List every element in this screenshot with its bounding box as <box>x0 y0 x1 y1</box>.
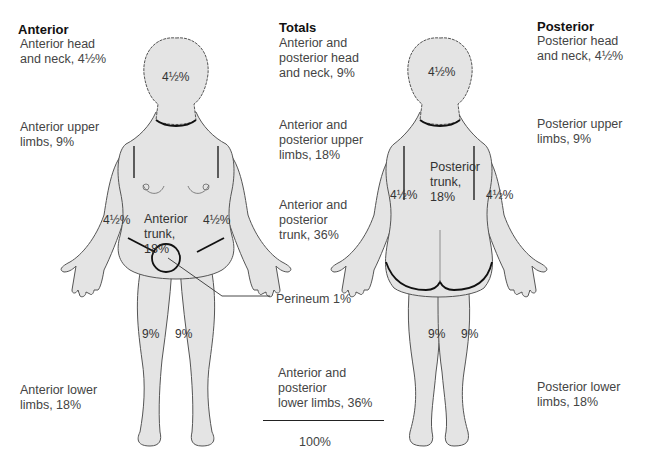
label-line: posterior upper <box>279 133 363 148</box>
label-line: and neck, 4½% <box>20 52 106 67</box>
posterior-lower-limbs-label: Posterior lower limbs, 18% <box>537 380 620 410</box>
anterior-lower-limbs-label: Anterior lower limbs, 18% <box>20 383 97 413</box>
label-line: Anterior and <box>278 366 372 381</box>
label-line: Anterior <box>144 212 188 227</box>
label-line: trunk, <box>144 227 188 242</box>
perineum-label: Perineum 1% <box>276 292 351 307</box>
posterior-right-arm-pct: 4½% <box>486 188 513 202</box>
anterior-right-leg-pct: 9% <box>175 327 192 341</box>
posterior-left-arm-pct: 4½% <box>390 188 417 202</box>
label-line: posterior <box>279 213 347 228</box>
posterior-head-neck-label: Posterior head and neck, 4½% <box>537 34 623 64</box>
label-line: limbs, 18% <box>537 395 620 410</box>
label-line: Posterior lower <box>537 380 620 395</box>
label-line: 18% <box>144 242 188 257</box>
label-line: Anterior upper <box>20 120 99 135</box>
totals-upper-limbs-label: Anterior and posterior upper limbs, 18% <box>279 118 363 163</box>
anterior-left-leg-pct: 9% <box>142 327 159 341</box>
label-line: trunk, <box>430 175 480 190</box>
anterior-head-neck-label: Anterior head and neck, 4½% <box>20 37 106 67</box>
anterior-left-arm-pct: 4½% <box>103 213 130 227</box>
label-line: Anterior head <box>20 37 106 52</box>
label-line: and neck, 9% <box>279 66 359 81</box>
heading-totals: Totals <box>279 20 316 35</box>
label-line: Posterior upper <box>537 117 622 132</box>
posterior-trunk-pct: Posterior trunk, 18% <box>430 160 480 205</box>
heading-anterior: Anterior <box>18 22 69 37</box>
anterior-head-pct: 4½% <box>162 70 189 84</box>
label-line: Anterior and <box>279 118 363 133</box>
posterior-left-leg-pct: 9% <box>428 327 445 341</box>
totals-head-neck-label: Anterior and posterior head and neck, 9% <box>279 36 359 81</box>
label-line: Anterior and <box>279 198 347 213</box>
heading-posterior: Posterior <box>537 19 594 34</box>
label-line: posterior head <box>279 51 359 66</box>
sum-divider <box>263 420 384 421</box>
label-line: limbs, 9% <box>537 132 622 147</box>
label-line: Posterior head <box>537 34 623 49</box>
totals-trunk-label: Anterior and posterior trunk, 36% <box>279 198 347 243</box>
totals-lower-limbs-label: Anterior and posterior lower limbs, 36% <box>278 366 372 411</box>
label-line: trunk, 36% <box>279 228 347 243</box>
anterior-trunk-pct: Anterior trunk, 18% <box>144 212 188 257</box>
label-line: Anterior and <box>279 36 359 51</box>
posterior-head-pct: 4½% <box>428 65 455 79</box>
anterior-upper-limbs-label: Anterior upper limbs, 9% <box>20 120 99 150</box>
label-line: Posterior <box>430 160 480 175</box>
posterior-upper-limbs-label: Posterior upper limbs, 9% <box>537 117 622 147</box>
label-line: 18% <box>430 190 480 205</box>
label-line: and neck, 4½% <box>537 49 623 64</box>
label-line: posterior <box>278 381 372 396</box>
label-line: limbs, 9% <box>20 135 99 150</box>
posterior-right-leg-pct: 9% <box>461 327 478 341</box>
label-line: Anterior lower <box>20 383 97 398</box>
totals-sum: 100% <box>299 435 331 450</box>
label-line: limbs, 18% <box>20 398 97 413</box>
label-line: lower limbs, 36% <box>278 396 372 411</box>
label-line: limbs, 18% <box>279 148 363 163</box>
anterior-right-arm-pct: 4½% <box>203 213 230 227</box>
